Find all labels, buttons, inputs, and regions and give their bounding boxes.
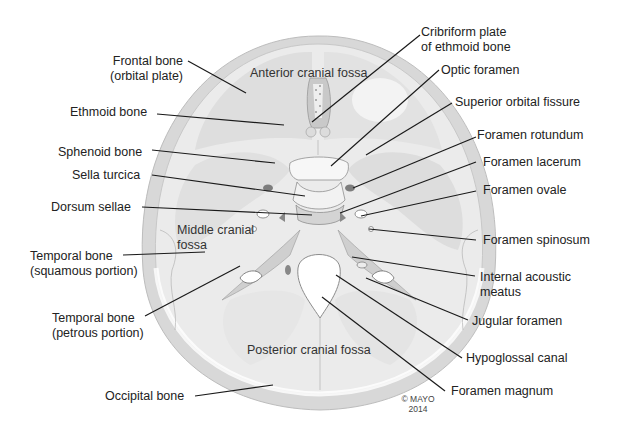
label-temporal-bone-squamous: Temporal bone (squamous portion) [30, 249, 138, 279]
label-internal-acoustic-line1: Internal acoustic [480, 270, 571, 285]
label-foramen-ovale: Foramen ovale [483, 183, 566, 198]
label-sella-turcica: Sella turcica [72, 168, 140, 183]
region-middle-cranial-fossa-line1: Middle cranial [177, 223, 254, 238]
label-temporal-petrous-line2: (petrous portion) [52, 326, 144, 341]
label-temporal-bone-petrous: Temporal bone (petrous portion) [52, 311, 144, 341]
region-posterior-cranial-fossa: Posterior cranial fossa [247, 343, 371, 358]
label-internal-acoustic-meatus: Internal acoustic meatus [480, 270, 571, 300]
label-internal-acoustic-line2: meatus [480, 285, 571, 300]
label-foramen-magnum: Foramen magnum [451, 384, 553, 399]
copyright-year: 2014 [400, 404, 436, 414]
label-temporal-petrous-line1: Temporal bone [52, 311, 144, 326]
label-frontal-bone-line1: Frontal bone [75, 54, 183, 69]
label-cribriform-plate: Cribriform plate of ethmoid bone [421, 25, 511, 55]
label-superior-orbital-fissure: Superior orbital fissure [455, 95, 580, 110]
label-cribriform-line2: of ethmoid bone [421, 40, 511, 55]
copyright: © MAYO 2014 [400, 394, 436, 414]
label-frontal-bone: Frontal bone (orbital plate) [75, 54, 183, 84]
label-foramen-spinosum: Foramen spinosum [483, 233, 590, 248]
copyright-line1: © MAYO [400, 394, 436, 404]
label-foramen-lacerum: Foramen lacerum [483, 155, 581, 170]
label-occipital-bone: Occipital bone [105, 389, 184, 404]
label-optic-foramen: Optic foramen [441, 63, 520, 78]
label-sphenoid-bone: Sphenoid bone [58, 145, 142, 160]
region-middle-cranial-fossa-line2: fossa [177, 238, 207, 253]
label-ethmoid-bone: Ethmoid bone [70, 105, 147, 120]
label-cribriform-line1: Cribriform plate [421, 25, 511, 40]
skull-base-diagram: Anterior cranial fossa Middle cranial fo… [0, 0, 621, 435]
label-temporal-squamous-line2: (squamous portion) [30, 264, 138, 279]
region-anterior-cranial-fossa: Anterior cranial fossa [250, 66, 367, 81]
label-frontal-bone-line2: (orbital plate) [75, 69, 183, 84]
label-jugular-foramen: Jugular foramen [472, 314, 562, 329]
label-dorsum-sellae: Dorsum sellae [51, 200, 131, 215]
label-hypoglossal-canal: Hypoglossal canal [466, 351, 567, 366]
label-temporal-squamous-line1: Temporal bone [30, 249, 138, 264]
label-foramen-rotundum: Foramen rotundum [477, 128, 583, 143]
